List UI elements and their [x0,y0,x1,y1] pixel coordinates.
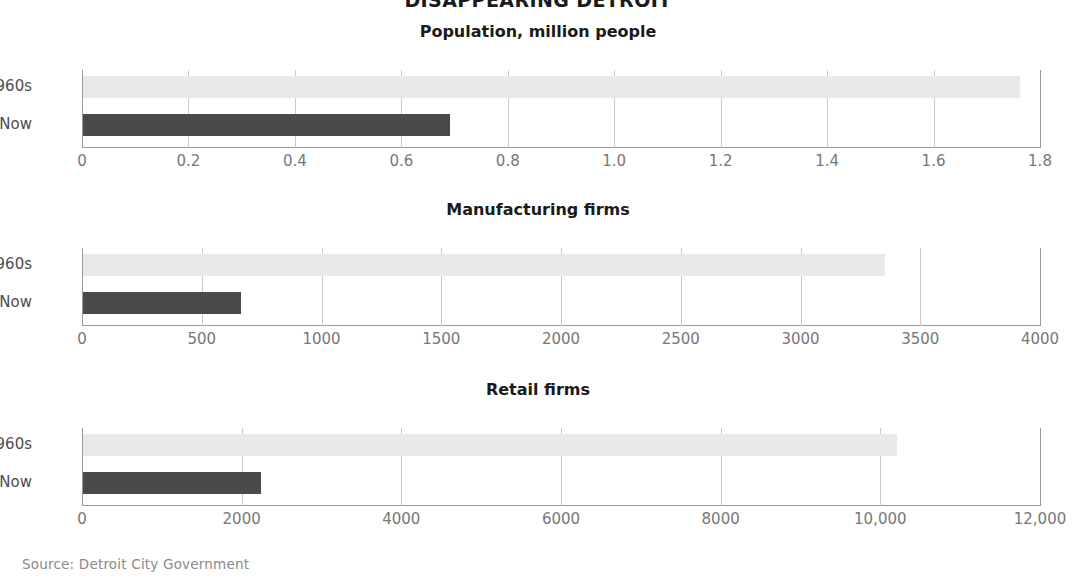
category-label-now: Now [0,473,32,491]
x-tick-label: 0.8 [496,152,520,170]
chart-title-retail: Retail firms [0,380,1076,399]
chart-page: { "header": { "main_title": "DISAPPEARIN… [0,0,1076,581]
category-label-1960s: 1960s [0,77,32,95]
bar-row [83,114,450,136]
x-tick-label: 3000 [781,330,819,348]
source-note: Source: Detroit City Government [22,556,249,572]
bar-row [83,76,1020,98]
bar-row [83,472,261,494]
x-tick-label: 1.2 [709,152,733,170]
x-tick-label: 0.2 [177,152,201,170]
x-tick-label: 4000 [1021,330,1059,348]
x-tick-label: 0 [77,510,87,528]
category-label-now: Now [0,293,32,311]
category-label-1960s: 1960s [0,435,32,453]
x-tick-label: 2000 [542,330,580,348]
bar-row [83,434,897,456]
gridline [1040,70,1041,148]
x-tick-label: 2500 [662,330,700,348]
bar-1960s [83,254,885,276]
x-tick-label: 2000 [223,510,261,528]
chart-panel-retail: Retail firms 1960s Now 02000400060008000… [0,380,1076,540]
x-tick-label: 1500 [422,330,460,348]
x-axis-line [82,147,1040,148]
x-tick-label: 3500 [901,330,939,348]
bar-row [83,254,885,276]
plot-area-manufacturing [82,248,1040,326]
plot-area-population [82,70,1040,148]
x-tick-label: 1.8 [1028,152,1052,170]
x-tick-label: 0.4 [283,152,307,170]
x-tick-label: 0 [77,330,87,348]
x-tick-label: 1000 [302,330,340,348]
x-tick-label: 8000 [702,510,740,528]
x-tick-label: 0.6 [389,152,413,170]
bar-now [83,292,241,314]
bar-now [83,472,261,494]
x-tick-label: 0 [77,152,87,170]
chart-panel-manufacturing: Manufacturing firms 1960s Now 0500100015… [0,200,1076,360]
x-tick-label: 6000 [542,510,580,528]
x-tick-label: 12,000 [1014,510,1067,528]
plot-area-retail [82,428,1040,506]
category-label-1960s: 1960s [0,255,32,273]
bar-now [83,114,450,136]
x-tick-label: 1.4 [815,152,839,170]
chart-title-manufacturing: Manufacturing firms [0,200,1076,219]
bar-row [83,292,241,314]
gridline [1040,248,1041,326]
gridline [1040,428,1041,506]
bar-1960s [83,434,897,456]
bar-1960s [83,76,1020,98]
gridline [920,248,921,326]
x-tick-label: 500 [187,330,216,348]
category-label-now: Now [0,115,32,133]
chart-panel-population: Population, million people 1960s Now 00.… [0,22,1076,182]
page-title: DISAPPEARING DETROIT [0,0,1076,11]
x-tick-label: 1.0 [602,152,626,170]
x-tick-label: 4000 [382,510,420,528]
x-tick-label: 1.6 [922,152,946,170]
chart-title-population: Population, million people [0,22,1076,41]
x-tick-label: 10,000 [854,510,907,528]
